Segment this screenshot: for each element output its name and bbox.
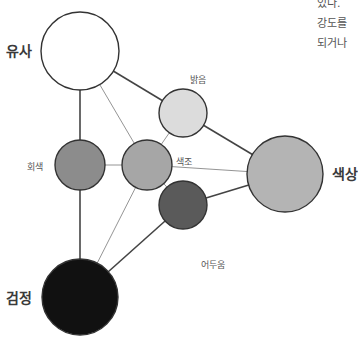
node-eoduum bbox=[159, 181, 207, 229]
label-eoduum: 어두움 bbox=[201, 258, 225, 271]
label-saeksang: 색상 bbox=[332, 163, 358, 183]
node-geomjeong bbox=[42, 259, 118, 335]
nodes bbox=[41, 12, 323, 335]
node-balgeum bbox=[159, 89, 207, 137]
label-balgeum: 밝음 bbox=[190, 73, 206, 86]
node-saekjo bbox=[122, 140, 172, 190]
label-hoesaek: 회색 bbox=[27, 160, 43, 173]
label-geomjeong: 검정 bbox=[6, 287, 32, 307]
label-yusa: 유사 bbox=[6, 40, 32, 60]
side-text-line-1: 있다. bbox=[317, 0, 341, 14]
node-yusa bbox=[41, 12, 119, 90]
node-hoesaek bbox=[55, 140, 105, 190]
side-text-line-3: 되거나 bbox=[317, 34, 347, 54]
node-saeksang bbox=[247, 136, 323, 212]
label-saekjo: 색조 bbox=[176, 155, 192, 168]
side-text-line-2: 강도를 bbox=[317, 14, 347, 34]
